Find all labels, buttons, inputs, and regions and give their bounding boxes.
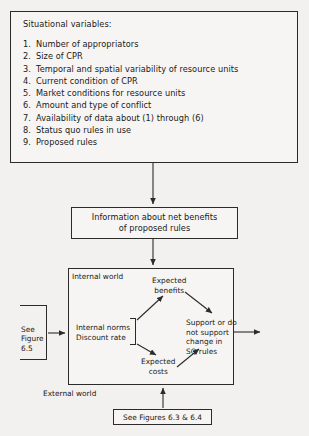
list-item-label: Status quo rules in use: [36, 125, 131, 135]
support-line-3: change in: [186, 337, 237, 347]
external-world-label: External world: [43, 389, 96, 398]
list-item: 3.Temporal and spatial variability of re…: [23, 63, 297, 75]
support-sq-rules-label: Support or do not support change in SQ r…: [186, 318, 237, 356]
list-item-label: Number of appropriators: [36, 39, 138, 49]
list-item-label: Size of CPR: [36, 51, 83, 61]
internal-world-label: Internal world: [72, 272, 123, 281]
internal-norms-bracket: [130, 318, 136, 345]
support-line-2: not support: [186, 328, 237, 338]
list-item-number: 1.: [23, 38, 36, 50]
see-figure-65-line-1: See: [21, 325, 44, 334]
list-item-label: Proposed rules: [36, 137, 97, 147]
info-box-line-2: of proposed rules: [119, 223, 190, 235]
see-figures-63-64-box: See Figures 6.3 & 6.4: [113, 409, 212, 425]
list-item: 1.Number of appropriators: [23, 38, 297, 50]
internal-norms-line-1: Internal norms: [76, 323, 130, 333]
list-item-number: 6.: [23, 99, 36, 111]
internal-norms-line-2: Discount rate: [76, 333, 130, 343]
list-item: 5.Market conditions for resource units: [23, 87, 297, 99]
list-item: 4.Current condition of CPR: [23, 75, 297, 87]
list-item-label: Amount and type of conflict: [36, 100, 151, 110]
list-item: 8.Status quo rules in use: [23, 124, 297, 136]
list-item-label: Current condition of CPR: [36, 76, 138, 86]
situational-variables-box: Situational variables: 1.Number of appro…: [10, 11, 298, 163]
info-box-line-1: Information about net benefits: [92, 212, 217, 224]
list-item: 2.Size of CPR: [23, 50, 297, 62]
situational-variables-title: Situational variables:: [23, 19, 297, 29]
support-line-1: Support or do: [186, 318, 237, 328]
see-figures-63-64-label: See Figures 6.3 & 6.4: [123, 413, 202, 422]
list-item-label: Availability of data about (1) through (…: [36, 113, 204, 123]
list-item: 7.Availability of data about (1) through…: [23, 112, 297, 124]
situational-variables-list: 1.Number of appropriators 2.Size of CPR …: [23, 38, 297, 149]
expected-costs-line-2: costs: [141, 367, 175, 377]
list-item-number: 8.: [23, 124, 36, 136]
expected-costs-label: Expected costs: [141, 357, 175, 376]
support-line-4: SQ rules: [186, 347, 237, 357]
list-item-number: 9.: [23, 136, 36, 148]
see-figure-65-line-3: 6.5: [21, 344, 44, 353]
list-item-label: Temporal and spatial variability of reso…: [36, 64, 238, 74]
see-figure-65-line-2: Figure: [21, 334, 44, 343]
list-item: 6.Amount and type of conflict: [23, 99, 297, 111]
diagram-canvas: Situational variables: 1.Number of appro…: [0, 0, 309, 436]
information-net-benefits-box: Information about net benefits of propos…: [71, 207, 238, 239]
expected-benefits-line-1: Expected: [152, 276, 186, 286]
expected-benefits-label: Expected benefits: [152, 276, 186, 295]
list-item-number: 5.: [23, 87, 36, 99]
see-figure-65-label: See Figure 6.5: [21, 325, 44, 353]
list-item-label: Market conditions for resource units: [36, 88, 185, 98]
expected-benefits-line-2: benefits: [152, 286, 186, 296]
list-item-number: 2.: [23, 50, 36, 62]
list-item-number: 7.: [23, 112, 36, 124]
list-item-number: 3.: [23, 63, 36, 75]
internal-norms-label: Internal norms Discount rate: [76, 323, 130, 342]
expected-costs-line-1: Expected: [141, 357, 175, 367]
list-item-number: 4.: [23, 75, 36, 87]
list-item: 9.Proposed rules: [23, 136, 297, 148]
